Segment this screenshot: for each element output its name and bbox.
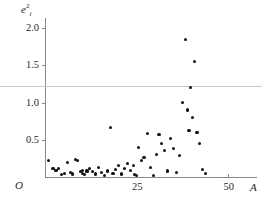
data-point <box>120 172 123 175</box>
y-axis-title-sup: 2 <box>26 2 30 10</box>
y-tick-label-0.5: 0.5 <box>11 135 39 146</box>
data-point <box>175 171 178 174</box>
data-point <box>135 174 138 177</box>
data-point <box>195 131 198 134</box>
data-point <box>71 172 74 175</box>
data-point <box>81 169 84 172</box>
data-point <box>140 159 143 162</box>
data-point <box>117 164 120 167</box>
data-point <box>189 86 192 89</box>
data-point <box>193 60 196 63</box>
y-axis-title-sub: i <box>29 10 31 18</box>
x-tick-label-25: 25 <box>128 182 146 193</box>
data-point <box>137 146 140 149</box>
data-point <box>83 173 86 176</box>
data-point <box>186 108 189 111</box>
y-tick-label-2.0: 2.0 <box>11 23 39 34</box>
y-tick-label-1.5: 1.5 <box>11 60 39 71</box>
data-point <box>129 169 132 172</box>
data-point <box>146 132 149 135</box>
data-point <box>184 38 187 41</box>
data-point <box>103 174 106 177</box>
data-point <box>132 164 135 167</box>
data-point <box>201 168 204 171</box>
x-tick-label-50: 50 <box>220 182 238 193</box>
data-point <box>126 162 129 165</box>
origin-label: O <box>15 179 23 191</box>
data-point <box>47 159 50 162</box>
data-point <box>111 172 114 175</box>
data-point <box>198 142 201 145</box>
data-point <box>172 147 175 150</box>
y-tick-1.0 <box>42 103 46 104</box>
data-point <box>163 149 166 152</box>
reference-hline <box>0 86 262 87</box>
data-point <box>76 159 79 162</box>
data-point <box>169 137 172 140</box>
data-point <box>57 167 60 170</box>
y-tick-0.5 <box>42 140 46 141</box>
scatter-plot-figure: e2i O A 0.51.01.52.0 2550 <box>0 0 268 203</box>
data-point <box>109 126 112 129</box>
data-point <box>181 101 184 104</box>
data-point <box>178 154 181 157</box>
data-point <box>157 133 160 136</box>
data-point <box>204 172 207 175</box>
data-point <box>142 156 145 159</box>
y-axis-line <box>45 18 46 178</box>
data-point <box>187 129 190 132</box>
y-axis-title: e2i <box>21 2 31 18</box>
data-point <box>94 172 97 175</box>
data-point <box>66 161 69 164</box>
data-point <box>114 168 117 171</box>
y-tick-2.0 <box>42 28 46 29</box>
x-axis-line <box>45 177 257 178</box>
data-point <box>63 172 66 175</box>
data-point <box>106 169 109 172</box>
data-point <box>191 116 194 119</box>
y-tick-label-1.0: 1.0 <box>11 98 39 109</box>
data-point <box>97 166 100 169</box>
data-point <box>155 153 158 156</box>
data-point <box>123 167 126 170</box>
y-tick-1.5 <box>42 65 46 66</box>
data-point <box>160 142 163 145</box>
data-point <box>149 166 152 169</box>
x-tick-50 <box>228 174 229 178</box>
data-point <box>152 174 155 177</box>
data-point <box>166 169 169 172</box>
x-axis-title: A <box>250 181 257 193</box>
